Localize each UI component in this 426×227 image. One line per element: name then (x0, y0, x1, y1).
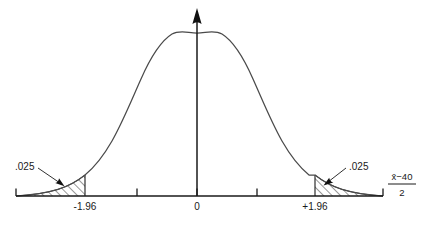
left-tail-shaded-region (16, 175, 85, 196)
left-area-label: .025 (15, 161, 35, 172)
right-area-leader-arrow (324, 168, 347, 186)
axis-label-denominator: 2 (399, 187, 404, 198)
left-area-leader-arrow (38, 168, 65, 186)
normal-density-curve (16, 32, 383, 196)
normal-distribution-figure: .025 .025 -1.96 0 +1.96 x̄−40 2 (0, 0, 426, 227)
center-mean-arrow (192, 8, 201, 196)
right-tail-shaded-region (315, 175, 383, 196)
tick-label-left-critical: -1.96 (74, 201, 97, 212)
tick-label-right-critical: +1.96 (302, 201, 328, 212)
normal-curve-plot: .025 .025 -1.96 0 +1.96 x̄−40 2 (0, 0, 426, 227)
tick-label-center: 0 (194, 201, 200, 212)
axis-label-numerator: x̄−40 (392, 171, 413, 182)
axis-variable-label: x̄−40 2 (388, 171, 416, 198)
right-area-label: .025 (349, 161, 369, 172)
